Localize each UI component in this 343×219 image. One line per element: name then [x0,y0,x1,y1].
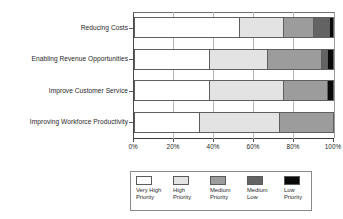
bar-segment [134,17,240,38]
x-tick-label: 60% [247,143,260,151]
legend-label: Medium Priority [210,187,242,201]
bar [134,49,334,70]
x-tick-label: 80% [287,143,300,151]
x-tick-label: 40% [207,143,220,151]
category-tick [129,91,133,92]
legend-swatch [136,176,152,185]
bar-segment [268,49,322,70]
legend-item: Medium Priority [210,176,242,201]
category-label: Reducing Costs [0,24,128,32]
plot-area: Reducing CostsEnabling Revenue Opportuni… [0,0,343,160]
category-label: Improving Workforce Productivity [0,118,128,126]
bar-segment [280,112,334,133]
x-tick-mark [293,139,294,142]
bar-segment [328,49,334,70]
category-tick [129,122,133,123]
category-tick [129,28,133,29]
legend-label: Medium Low [247,187,279,201]
legend-swatch [210,176,226,185]
bar-segment [200,112,280,133]
bar [134,112,334,133]
legend-item: Very High Priority [136,176,168,201]
x-tick-mark [253,139,254,142]
legend-label: Low Priority [284,187,316,201]
bar [134,80,334,101]
bar-segment [330,17,334,38]
bar-segment [240,17,284,38]
x-tick-mark [213,139,214,142]
x-tick-label: 100% [325,143,341,151]
bar-segment [134,112,200,133]
x-tick-mark [333,139,334,142]
bar [134,17,334,38]
legend-items: Very High PriorityHigh PriorityMedium Pr… [136,176,316,201]
bar-segment [210,80,284,101]
bar-segment [328,80,334,101]
category-label: Enabling Revenue Opportunities [0,55,128,63]
bar-segment [210,49,268,70]
legend-label: High Priority [173,187,205,201]
x-tick-label: 0% [128,143,137,151]
x-tick-label: 20% [167,143,180,151]
bar-segment [134,80,210,101]
category-label: Improve Customer Service [0,87,128,95]
legend-swatch [173,176,189,185]
x-tick-mark [133,139,134,142]
legend-swatch [247,176,263,185]
legend-item: High Priority [173,176,205,201]
plot-top-border [133,12,334,13]
legend-item: Medium Low [247,176,279,201]
bar-segment [134,49,210,70]
category-axis-labels: Reducing CostsEnabling Revenue Opportuni… [0,12,128,138]
bar-segment [284,80,328,101]
legend: Very High PriorityHigh PriorityMedium Pr… [130,171,312,211]
x-tick-mark [173,139,174,142]
bar-segment [314,17,330,38]
category-tick [129,59,133,60]
legend-label: Very High Priority [136,187,168,201]
bar-segment [284,17,314,38]
stacked-bar-chart: Reducing CostsEnabling Revenue Opportuni… [0,0,343,219]
legend-item: Low Priority [284,176,316,201]
legend-swatch [284,176,300,185]
x-axis-line [133,138,334,139]
